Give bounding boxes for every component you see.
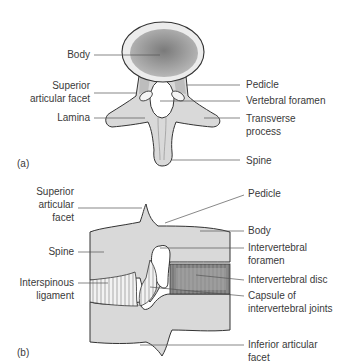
label-lamina: Lamina bbox=[40, 112, 90, 124]
panel-a-tag: (a) bbox=[17, 158, 29, 170]
label-intervertebral-disc: Intervertebral disc bbox=[248, 274, 327, 286]
label-interspinous-ligament-2: ligament bbox=[0, 290, 74, 302]
label-inferior-facet-1: Inferior articular bbox=[248, 339, 317, 351]
label-vertebral-foramen: Vertebral foramen bbox=[246, 95, 326, 107]
label-inferior-facet-2: facet bbox=[248, 352, 270, 361]
label-superior-facet-b-1: Superior bbox=[10, 186, 74, 198]
label-spine-b: Spine bbox=[10, 246, 74, 258]
label-body-a: Body bbox=[40, 49, 90, 61]
label-spine-a: Spine bbox=[246, 155, 272, 167]
label-superior-facet-b-3: facet bbox=[10, 212, 74, 224]
label-superior-facet-a-2: articular facet bbox=[20, 93, 90, 105]
label-interspinous-ligament-1: Interspinous bbox=[0, 277, 74, 289]
panel-b-tag: (b) bbox=[17, 347, 29, 359]
vertebral-foramen bbox=[150, 80, 174, 118]
label-pedicle-a: Pedicle bbox=[246, 79, 279, 91]
label-transverse-process-1: Transverse bbox=[246, 113, 296, 125]
label-intervertebral-foramen-2: foramen bbox=[248, 255, 285, 267]
label-pedicle-b: Pedicle bbox=[248, 188, 281, 200]
label-capsule-2: intervertebral joints bbox=[248, 303, 332, 315]
panel-a-vertebra bbox=[106, 22, 220, 166]
label-superior-facet-a-1: Superior bbox=[20, 80, 90, 92]
label-transverse-process-2: process bbox=[246, 126, 281, 138]
panel-b-vertebrae bbox=[90, 204, 230, 356]
label-intervertebral-foramen-1: Intervertebral bbox=[248, 242, 307, 254]
label-body-b: Body bbox=[248, 225, 271, 237]
label-superior-facet-b-2: articular bbox=[10, 199, 74, 211]
label-capsule-1: Capsule of bbox=[248, 290, 296, 302]
